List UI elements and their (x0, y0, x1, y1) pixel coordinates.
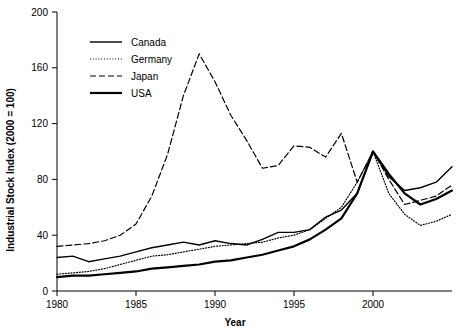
y-tick-label: 80 (37, 174, 49, 185)
chart-legend: Canada Germany Japan USA (90, 37, 172, 99)
y-tick-label: 120 (31, 118, 48, 129)
line-chart: Industrial Stock Index (2000 = 100) Year… (0, 0, 462, 332)
legend-label-japan: Japan (131, 71, 158, 82)
x-tick-label: 1990 (204, 299, 227, 310)
y-tick-label: 0 (42, 286, 48, 297)
y-axis-title: Industrial Stock Index (2000 = 100) (5, 88, 16, 252)
x-tick-label: 1995 (283, 299, 306, 310)
y-tick-label: 160 (31, 62, 48, 73)
x-tick-label: 1985 (125, 299, 148, 310)
legend-label-germany: Germany (131, 54, 172, 65)
x-axis-title: Year (224, 317, 245, 328)
data-series-group (57, 54, 452, 277)
x-axis-ticks: 1980 1985 1990 1995 2000 (46, 291, 385, 310)
x-tick-label: 1980 (46, 299, 69, 310)
y-axis-ticks: 0 40 80 120 160 200 (31, 7, 57, 297)
y-tick-label: 40 (37, 230, 49, 241)
y-tick-label: 200 (31, 7, 48, 18)
chart-container: Industrial Stock Index (2000 = 100) Year… (0, 0, 462, 332)
legend-label-usa: USA (131, 88, 152, 99)
x-tick-label: 2000 (362, 299, 385, 310)
series-line-japan (57, 54, 452, 247)
series-line-canada (57, 152, 452, 262)
series-line-usa (57, 152, 452, 278)
legend-label-canada: Canada (131, 37, 166, 48)
